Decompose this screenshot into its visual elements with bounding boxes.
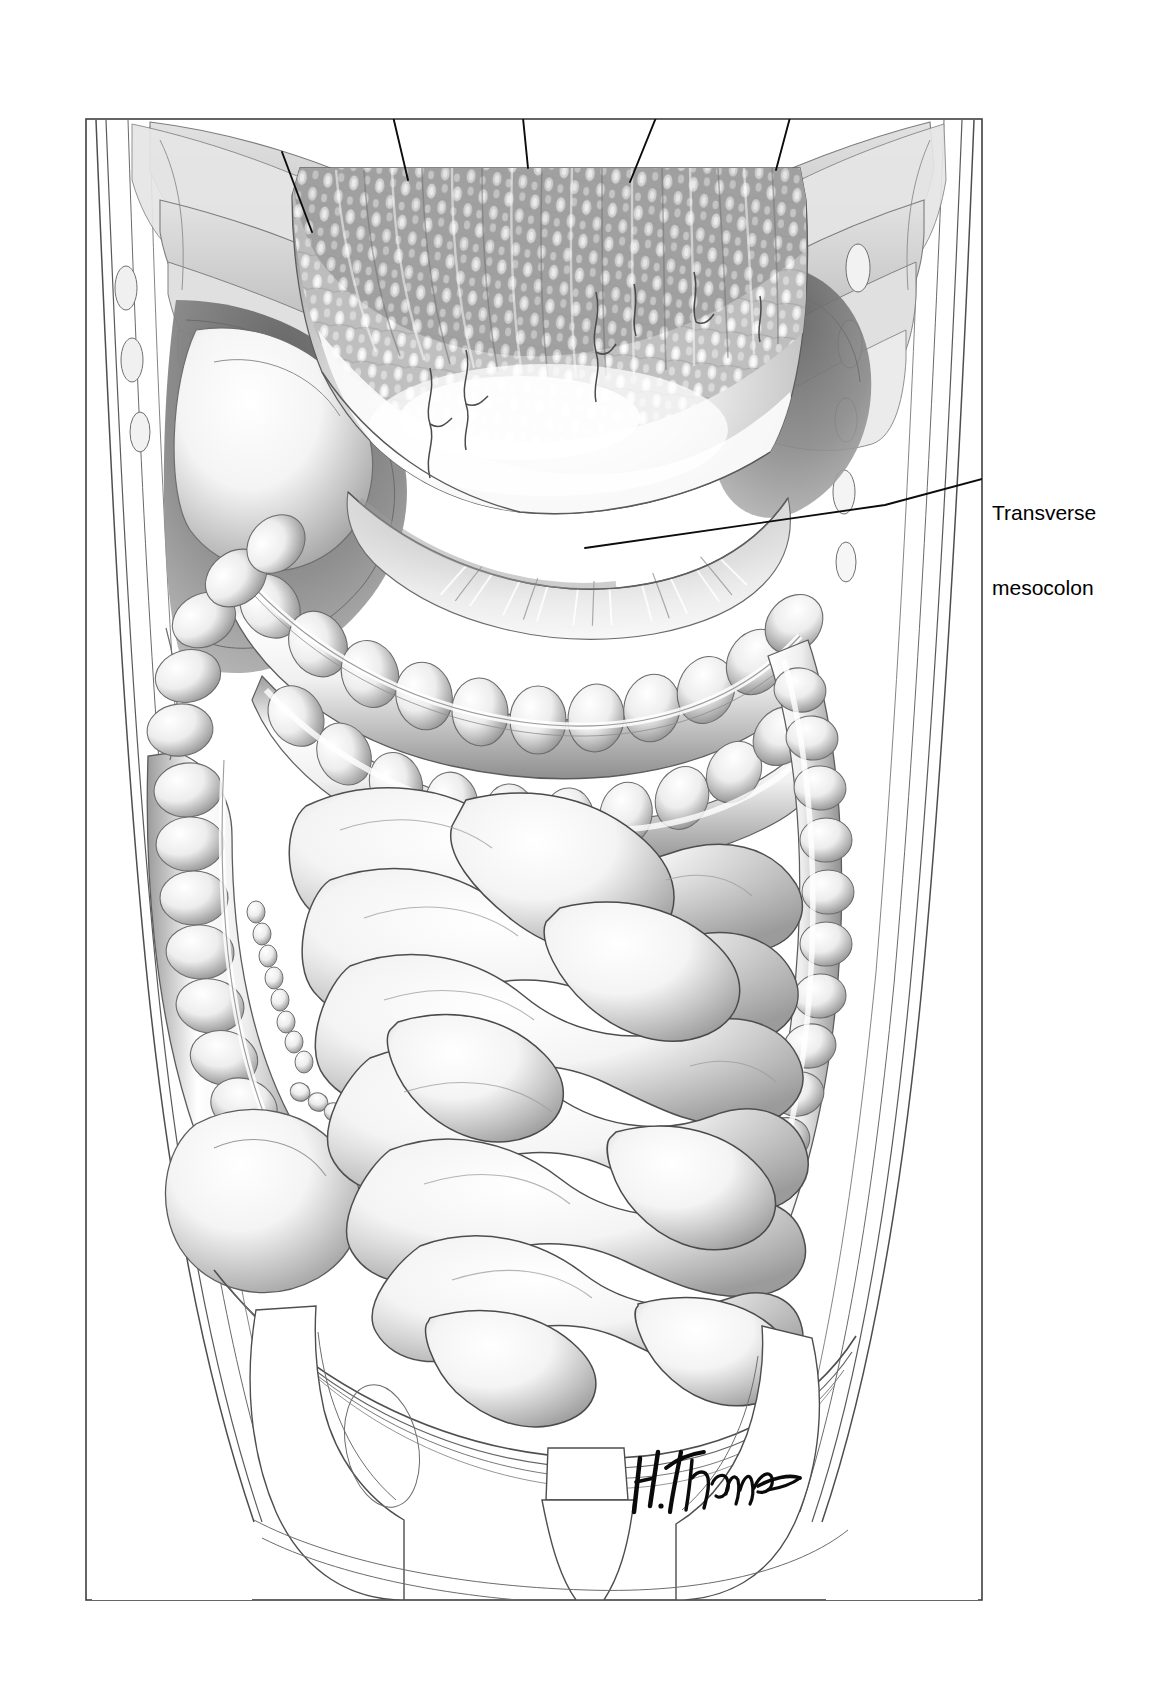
anatomy-figure bbox=[0, 0, 1160, 1692]
label-transverse-mesocolon: Transverse mesocolon bbox=[992, 450, 1096, 650]
label-line-1: Transverse bbox=[992, 500, 1096, 525]
illustration-page: Transverse mesocolon bbox=[0, 0, 1160, 1692]
label-line-2: mesocolon bbox=[992, 575, 1096, 600]
